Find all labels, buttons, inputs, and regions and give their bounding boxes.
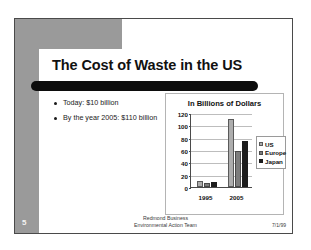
bar <box>228 119 234 187</box>
legend-item: US <box>259 141 284 148</box>
list-item: Today: $10 billion <box>54 98 162 109</box>
bar <box>204 183 210 187</box>
redaction-bar <box>31 81 258 91</box>
x-axis-tick-label: 1995 <box>199 194 213 201</box>
bar <box>235 151 241 187</box>
y-axis-tick-label: 120 <box>178 111 188 118</box>
legend-swatch <box>259 151 263 155</box>
footer-line-2: Environmental Action Team <box>39 222 292 229</box>
chart-legend: USEuropeJapan <box>256 136 286 169</box>
footer-text: Redmond Business Environmental Action Te… <box>39 215 292 228</box>
header-band-top <box>15 19 122 49</box>
y-axis-tick-label: 0 <box>185 185 188 192</box>
x-axis-tick-label: 2005 <box>230 194 244 201</box>
sidebar-band-left <box>15 19 39 233</box>
footer-date: 7/1/99 <box>272 222 286 228</box>
y-axis-tick-label: 60 <box>181 148 188 155</box>
legend-swatch <box>259 142 263 146</box>
y-axis-tick-label: 80 <box>181 135 188 142</box>
slide-title: The Cost of Waste in the US <box>52 57 282 73</box>
chart-panel: In Billions of Dollars 020406080100120 1… <box>165 93 284 215</box>
y-axis-tick-labels: 020406080100120 <box>172 114 188 188</box>
y-axis-tick-label: 20 <box>181 172 188 179</box>
y-axis-tick <box>189 188 191 189</box>
bar <box>242 141 248 187</box>
y-axis-tick-label: 40 <box>181 160 188 167</box>
bar <box>211 182 217 187</box>
list-item: By the year 2005: $110 billion <box>54 113 162 124</box>
legend-item: Japan <box>259 158 284 165</box>
legend-label: Europe <box>265 149 286 156</box>
presentation-slide: The Cost of Waste in the US Today: $10 b… <box>14 18 293 234</box>
bullet-list: Today: $10 billion By the year 2005: $11… <box>54 98 162 127</box>
legend-item: Europe <box>259 149 284 156</box>
chart-plot-area <box>190 114 252 188</box>
bar <box>197 181 203 187</box>
bar-group <box>222 114 253 187</box>
y-axis-tick-label: 100 <box>178 123 188 130</box>
x-axis-tick-labels: 19952005 <box>190 194 252 206</box>
slide-number: 5 <box>22 218 26 227</box>
legend-label: US <box>265 141 274 148</box>
chart-title: In Billions of Dollars <box>166 99 283 108</box>
bar-group <box>191 114 222 187</box>
screenshot-canvas: The Cost of Waste in the US Today: $10 b… <box>0 0 311 250</box>
legend-swatch <box>259 159 263 163</box>
legend-label: Japan <box>265 158 283 165</box>
chart-plot-wrapper: 020406080100120 19952005 USEuropeJapan <box>172 114 277 208</box>
